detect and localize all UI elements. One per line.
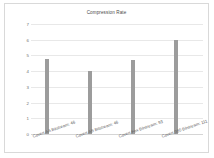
chart-container: Compression Rate 01234567 Covert AA Bits… [4,3,209,153]
y-axis-tick-label: 7 [27,22,29,27]
y-axis-tick-label: 2 [27,100,29,105]
chart-title: Compression Rate [5,10,208,15]
y-axis-tick-label: 0 [27,132,29,137]
x-axis-labels: Covert AA Bitstream: 46Covert AB Bitstre… [31,134,211,158]
y-axis-tick-label: 6 [27,37,29,42]
bar[interactable] [131,60,135,134]
y-axis-tick-label: 3 [27,84,29,89]
bar-slot [117,24,160,134]
bar-slot [160,24,203,134]
bar[interactable] [88,71,92,134]
y-axis-tick-label: 1 [27,116,29,121]
bar-series [31,24,203,134]
bar[interactable] [174,40,178,134]
y-axis-tick-label: 4 [27,69,29,74]
bar[interactable] [45,59,49,134]
y-axis-tick-label: 5 [27,53,29,58]
bar-slot [74,24,117,134]
plot-area [31,24,203,134]
bar-slot [31,24,74,134]
y-axis: 01234567 [19,24,29,134]
